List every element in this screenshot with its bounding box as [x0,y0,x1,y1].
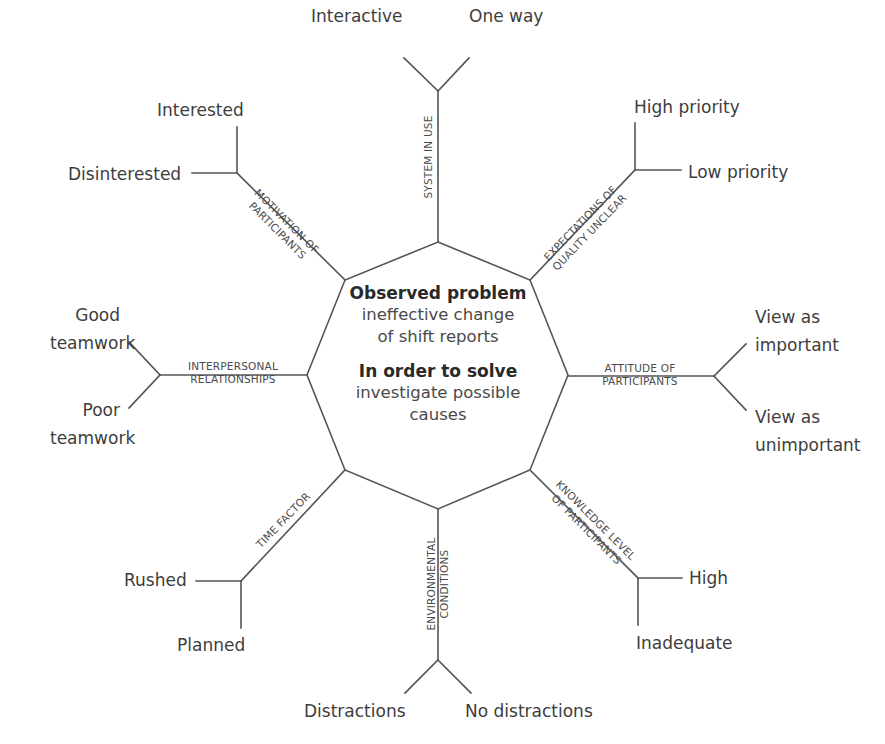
observed-problem-line-1: ineffective change [338,304,538,326]
option-disinterested: Disinterested [68,162,181,186]
category-interpersonal-line-2: RELATIONSHIPS [164,373,302,386]
option-high-priority: High priority [634,95,740,119]
category-environment: ENVIRONMENTAL CONDITIONS [425,524,451,644]
category-attitude-line-1: ATTITUDE OF [580,362,700,375]
option-low-priority: Low priority [688,160,788,184]
option-view-as-unimportant-line-2: unimportant [755,431,861,459]
category-interpersonal: INTERPERSONAL RELATIONSHIPS [164,360,302,386]
solve-heading: In order to solve [338,360,538,382]
option-view-as-unimportant-line-1: View as [755,403,861,431]
option-good-teamwork: Good teamwork [50,301,120,357]
observed-problem-heading: Observed problem [338,282,538,304]
option-view-as-important-line-1: View as [755,303,839,331]
option-interactive: Interactive [311,4,403,28]
category-attitude: ATTITUDE OF PARTICIPANTS [580,362,700,388]
category-system-in-use: SYSTEM IN USE [422,97,435,217]
option-one-way: One way [469,4,543,28]
option-view-as-unimportant: View as unimportant [755,403,861,459]
option-poor-teamwork-line-1: Poor [50,396,120,424]
category-interpersonal-line-1: INTERPERSONAL [164,360,302,373]
option-inadequate: Inadequate [636,631,733,655]
category-environment-line-2: CONDITIONS [438,524,451,644]
option-view-as-important-line-2: important [755,331,839,359]
option-good-teamwork-line-1: Good [50,301,120,329]
category-attitude-line-2: PARTICIPANTS [580,375,700,388]
option-poor-teamwork: Poor teamwork [50,396,120,452]
option-high: High [689,566,728,590]
central-problem-statement: Observed problem ineffective change of s… [338,282,538,426]
branch-system-lines [404,58,469,242]
option-no-distractions: No distractions [465,699,593,723]
option-distractions: Distractions [304,699,406,723]
option-interested: Interested [157,98,244,122]
branch-time-lines [196,470,345,628]
solve-line-1: investigate possible [338,382,538,404]
option-planned: Planned [177,633,245,657]
observed-problem-line-2: of shift reports [338,326,538,348]
solve-line-2: causes [338,404,538,426]
option-poor-teamwork-line-2: teamwork [50,424,120,452]
option-good-teamwork-line-2: teamwork [50,329,120,357]
category-environment-line-1: ENVIRONMENTAL [425,524,438,644]
option-view-as-important: View as important [755,303,839,359]
option-rushed: Rushed [124,568,187,592]
